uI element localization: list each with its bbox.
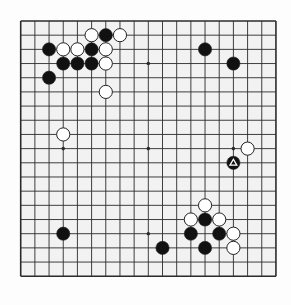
board-intersection[interactable] — [198, 99, 212, 113]
board-intersection[interactable] — [85, 142, 99, 156]
board-intersection[interactable] — [42, 170, 56, 184]
board-intersection[interactable] — [127, 227, 141, 241]
board-intersection[interactable] — [155, 227, 169, 241]
board-intersection[interactable] — [255, 255, 269, 269]
board-intersection[interactable] — [255, 14, 269, 28]
board-intersection[interactable] — [141, 56, 155, 70]
board-intersection[interactable] — [240, 227, 254, 241]
board-intersection[interactable] — [170, 56, 184, 70]
board-intersection[interactable] — [184, 28, 198, 42]
board-intersection[interactable] — [226, 269, 240, 283]
board-intersection[interactable] — [198, 56, 212, 70]
board-intersection[interactable] — [70, 127, 84, 141]
board-intersection[interactable] — [85, 241, 99, 255]
board-intersection[interactable] — [212, 42, 226, 56]
board-intersection[interactable] — [42, 184, 56, 198]
board-intersection[interactable] — [127, 255, 141, 269]
board-intersection[interactable] — [127, 212, 141, 226]
board-intersection[interactable] — [184, 14, 198, 28]
board-intersection[interactable] — [212, 85, 226, 99]
board-intersection[interactable] — [226, 255, 240, 269]
board-intersection[interactable] — [269, 99, 283, 113]
board-intersection[interactable] — [269, 241, 283, 255]
board-intersection[interactable] — [226, 14, 240, 28]
board-intersection[interactable] — [70, 28, 84, 42]
board-intersection[interactable] — [113, 14, 127, 28]
board-intersection[interactable] — [70, 71, 84, 85]
board-intersection[interactable] — [226, 42, 240, 56]
board-intersection[interactable] — [212, 99, 226, 113]
board-intersection[interactable] — [240, 42, 254, 56]
board-intersection[interactable] — [255, 85, 269, 99]
board-intersection[interactable] — [255, 113, 269, 127]
board-intersection[interactable] — [127, 127, 141, 141]
board-intersection[interactable] — [42, 85, 56, 99]
board-intersection[interactable] — [184, 269, 198, 283]
board-intersection[interactable] — [56, 212, 70, 226]
board-intersection[interactable] — [155, 42, 169, 56]
board-intersection[interactable] — [226, 142, 240, 156]
board-intersection[interactable] — [184, 255, 198, 269]
board-intersection[interactable] — [155, 113, 169, 127]
board-intersection[interactable] — [56, 269, 70, 283]
board-intersection[interactable] — [155, 85, 169, 99]
board-intersection[interactable] — [42, 269, 56, 283]
board-intersection[interactable] — [70, 198, 84, 212]
board-intersection[interactable] — [212, 255, 226, 269]
board-intersection[interactable] — [28, 28, 42, 42]
board-intersection[interactable] — [85, 14, 99, 28]
board-intersection[interactable] — [170, 85, 184, 99]
board-intersection[interactable] — [70, 212, 84, 226]
board-intersection[interactable] — [42, 241, 56, 255]
board-intersection[interactable] — [28, 212, 42, 226]
board-intersection[interactable] — [226, 198, 240, 212]
board-intersection[interactable] — [99, 184, 113, 198]
board-intersection[interactable] — [70, 227, 84, 241]
board-intersection[interactable] — [155, 127, 169, 141]
board-intersection[interactable] — [99, 142, 113, 156]
board-intersection[interactable] — [56, 241, 70, 255]
board-intersection[interactable] — [70, 170, 84, 184]
board-intersection[interactable] — [255, 184, 269, 198]
board-intersection[interactable] — [42, 142, 56, 156]
board-intersection[interactable] — [85, 127, 99, 141]
board-intersection[interactable] — [184, 42, 198, 56]
board-intersection[interactable] — [184, 156, 198, 170]
board-intersection[interactable] — [85, 156, 99, 170]
board-intersection[interactable] — [70, 99, 84, 113]
board-intersection[interactable] — [184, 184, 198, 198]
board-intersection[interactable] — [113, 85, 127, 99]
board-intersection[interactable] — [198, 142, 212, 156]
board-intersection[interactable] — [56, 255, 70, 269]
board-intersection[interactable] — [42, 255, 56, 269]
board-intersection[interactable] — [212, 269, 226, 283]
board-intersection[interactable] — [113, 269, 127, 283]
board-intersection[interactable] — [255, 198, 269, 212]
board-intersection[interactable] — [56, 71, 70, 85]
board-intersection[interactable] — [255, 56, 269, 70]
board-intersection[interactable] — [255, 142, 269, 156]
board-intersection[interactable] — [170, 269, 184, 283]
board-intersection[interactable] — [198, 269, 212, 283]
board-intersection[interactable] — [170, 113, 184, 127]
board-intersection[interactable] — [155, 71, 169, 85]
board-intersection[interactable] — [155, 99, 169, 113]
board-intersection[interactable] — [85, 85, 99, 99]
board-intersection[interactable] — [28, 113, 42, 127]
board-intersection[interactable] — [170, 127, 184, 141]
board-intersection[interactable] — [184, 142, 198, 156]
board-intersection[interactable] — [56, 99, 70, 113]
board-intersection[interactable] — [226, 212, 240, 226]
board-intersection[interactable] — [42, 127, 56, 141]
board-intersection[interactable] — [28, 71, 42, 85]
board-intersection[interactable] — [70, 85, 84, 99]
board-intersection[interactable] — [184, 198, 198, 212]
board-intersection[interactable] — [198, 184, 212, 198]
board-intersection[interactable] — [127, 170, 141, 184]
board-intersection[interactable] — [14, 156, 28, 170]
board-intersection[interactable] — [14, 85, 28, 99]
board-intersection[interactable] — [255, 28, 269, 42]
board-intersection[interactable] — [70, 255, 84, 269]
board-intersection[interactable] — [269, 127, 283, 141]
board-intersection[interactable] — [28, 269, 42, 283]
